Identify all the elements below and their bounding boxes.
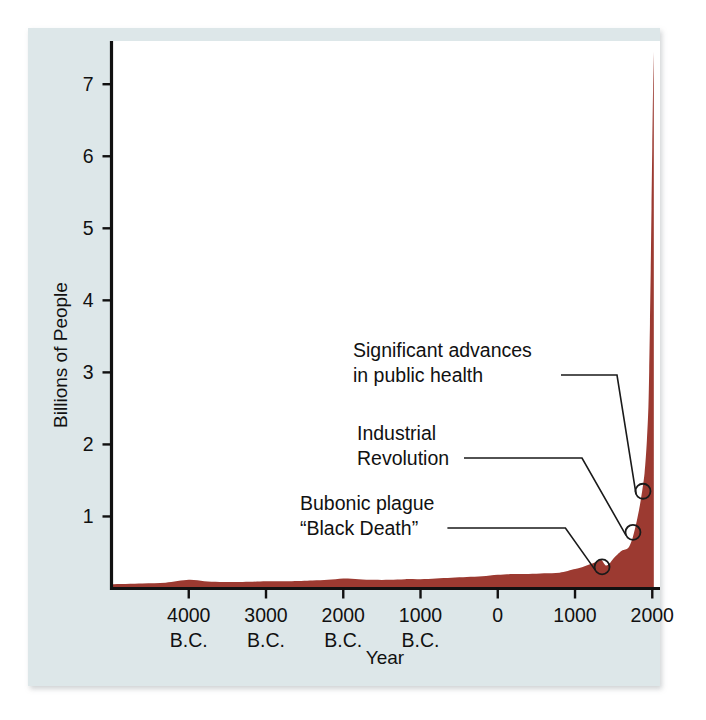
x-tick-label-1: 3000 — [244, 604, 288, 626]
annotation-label-bubonic-plague-line-1: “Black Death” — [300, 517, 418, 539]
x-tick-label-2: 2000 — [322, 604, 366, 626]
y-tick-label-5: 5 — [83, 217, 94, 239]
annotation-label-industrial-revolution-line-0: Industrial — [357, 422, 436, 444]
x-tick-sublabel-3: B.C. — [402, 629, 440, 651]
x-tick-label-5: 1000 — [553, 604, 597, 626]
y-axis-ticks: 1234567 — [83, 73, 112, 527]
y-tick-label-6: 6 — [83, 145, 94, 167]
annotation-label-bubonic-plague-line-0: Bubonic plague — [300, 492, 434, 514]
x-axis-title: Year — [366, 647, 405, 668]
x-tick-sublabel-0: B.C. — [170, 629, 208, 651]
annotation-label-industrial-revolution-line-1: Revolution — [357, 447, 449, 469]
population-growth-figure: 1234567 4000B.C.3000B.C.2000B.C.1000B.C.… — [0, 0, 706, 720]
y-tick-label-7: 7 — [83, 73, 94, 95]
y-axis-title: Billions of People — [50, 282, 71, 428]
x-axis-ticks: 4000B.C.3000B.C.2000B.C.1000B.C.01000200… — [167, 589, 674, 651]
x-tick-sublabel-2: B.C. — [324, 629, 362, 651]
y-tick-label-1: 1 — [83, 505, 94, 527]
x-tick-label-6: 2000 — [631, 604, 675, 626]
y-tick-label-3: 3 — [83, 361, 94, 383]
annotation-label-public-health-line-0: Significant advances — [353, 339, 532, 361]
y-tick-label-4: 4 — [83, 289, 94, 311]
x-tick-sublabel-1: B.C. — [247, 629, 285, 651]
x-tick-label-4: 0 — [492, 604, 503, 626]
annotation-label-public-health-line-1: in public health — [353, 364, 483, 386]
x-tick-label-0: 4000 — [167, 604, 211, 626]
y-tick-label-2: 2 — [83, 433, 94, 455]
x-tick-label-3: 1000 — [399, 604, 443, 626]
chart-svg: 1234567 4000B.C.3000B.C.2000B.C.1000B.C.… — [0, 0, 706, 720]
